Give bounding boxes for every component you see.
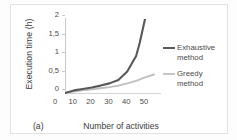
figure-caption: (a) (33, 121, 44, 131)
chart-legend: Exhaustive method Greedy method (163, 43, 235, 95)
y-tick-mark-2 (62, 15, 65, 16)
series-lines (65, 19, 165, 95)
legend-item-exhaustive[interactable]: Exhaustive method (163, 43, 235, 62)
legend-label-exhaustive-line1: Exhaustive (177, 43, 231, 53)
y-tick-1: 1 (17, 48, 59, 56)
legend-label-greedy-line2: method (177, 79, 231, 89)
plot-area (65, 19, 165, 93)
figure-container: Execution time (h) 2 1,5 1 0,5 0 0 10 20… (0, 0, 237, 140)
legend-label-exhaustive: Exhaustive method (177, 43, 231, 62)
legend-swatch-exhaustive-icon (163, 47, 175, 49)
legend-label-greedy: Greedy method (177, 69, 231, 88)
legend-swatch-greedy-icon (163, 73, 175, 75)
legend-label-exhaustive-line2: method (177, 53, 231, 63)
y-tick-label-1: 1 (19, 48, 59, 56)
y-tick-label-2: 2 (19, 11, 59, 19)
x-axis-title: Number of activities (61, 121, 181, 131)
y-tick-label-0-5: 0,5 (19, 67, 59, 75)
y-tick-0-5: 0,5 (17, 67, 59, 75)
figure-frame: Execution time (h) 2 1,5 1 0,5 0 0 10 20… (10, 4, 228, 134)
x-tick-label-50: 50 (133, 97, 155, 106)
y-tick-1-5: 1,5 (17, 30, 59, 38)
y-tick-0: 0 (17, 85, 59, 93)
y-tick-label-1-5: 1,5 (19, 30, 59, 38)
y-tick-2: 2 (17, 11, 59, 19)
y-tick-label-0: 0 (19, 85, 59, 93)
legend-label-greedy-line1: Greedy (177, 69, 231, 79)
legend-item-greedy[interactable]: Greedy method (163, 69, 235, 88)
